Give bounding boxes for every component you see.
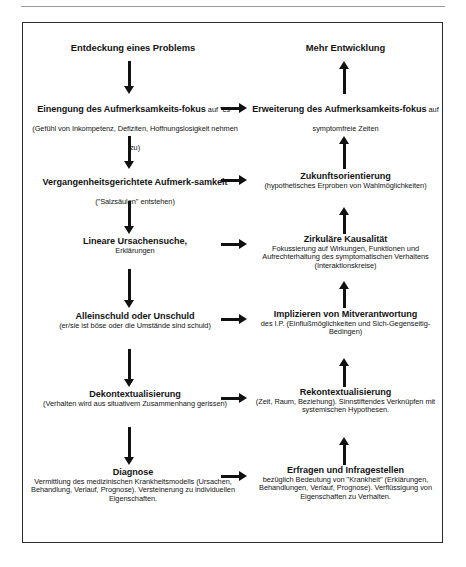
right-node-4: Implizieren von Mitverantwortung des I.P… bbox=[247, 309, 444, 337]
left-arrow-down-6 bbox=[124, 427, 135, 465]
diagram-frame: Entdeckung eines Problems Einengung des … bbox=[22, 22, 443, 543]
page-top-rule bbox=[21, 6, 445, 7]
left-node-5: Dekontextualisierung (Verhalten wird aus… bbox=[31, 389, 239, 408]
right-arrow-up-5 bbox=[339, 358, 350, 387]
right-arrow-up-3 bbox=[339, 207, 350, 234]
cross-arrow-1 bbox=[221, 103, 247, 114]
right-node-6: Erfragen und Infragestellen bezüglich Be… bbox=[245, 465, 446, 502]
left-node-2-heading: Vergangenheitsgerichtete Aufmerk-samkeit bbox=[42, 177, 227, 187]
right-node-5-sub: (Zeit, Raum, Beziehung). Sinnstiftendes … bbox=[247, 398, 444, 415]
left-arrow-down-3 bbox=[124, 201, 135, 234]
left-arrow-down-5 bbox=[124, 349, 135, 387]
right-title: Mehr Entwicklung bbox=[245, 37, 446, 56]
left-title-label: Entdeckung eines Problems bbox=[71, 42, 195, 53]
right-node-5: Rekontextualisierung (Zeit, Raum, Bezieh… bbox=[247, 387, 444, 415]
right-node-4-sub: des I.P. (Einflußmöglichkeiten und Sich-… bbox=[247, 320, 444, 337]
cross-arrow-3 bbox=[221, 239, 247, 250]
right-column: Mehr Entwicklung Erweiterung des Aufmerk… bbox=[245, 23, 446, 542]
left-arrow-down-1 bbox=[124, 61, 135, 94]
left-node-2: Vergangenheitsgerichtete Aufmerk-samkeit… bbox=[31, 171, 239, 209]
right-node-3: Zirkuläre Kausalität Fokussierung auf Wi… bbox=[247, 234, 444, 271]
left-column: Entdeckung eines Problems Einengung des … bbox=[25, 23, 241, 542]
left-node-6: Diagnose Vermittlung des medizinischen K… bbox=[25, 467, 241, 504]
right-arrow-up-2 bbox=[339, 136, 350, 169]
right-arrow-up-1 bbox=[339, 61, 350, 94]
left-node-3-sub: Erklärungen bbox=[31, 247, 239, 256]
left-node-6-sub: Vermittlung des medizinischen Krankheits… bbox=[25, 478, 241, 504]
right-node-2: Zukunftsorientierung (hypothetisches Erp… bbox=[247, 171, 444, 190]
right-node-3-sub: Fokussierung auf Wirkungen, Funktionen u… bbox=[247, 245, 444, 271]
right-title-label: Mehr Entwicklung bbox=[306, 42, 385, 53]
right-node-2-sub: (hypothetisches Erproben von Wahlmöglich… bbox=[247, 182, 444, 191]
cross-arrow-5 bbox=[221, 393, 247, 404]
left-node-1-heading: Einengung des Aufmerksamkeits-fokus bbox=[37, 104, 206, 114]
cross-arrow-2 bbox=[221, 175, 247, 186]
left-title: Entdeckung eines Problems bbox=[25, 37, 241, 56]
left-node-2-sub: ("Salzsäulen" entstehen) bbox=[95, 197, 175, 206]
right-node-1: Erweiterung des Aufmerksamkeits-fokus au… bbox=[247, 98, 444, 136]
left-node-5-sub: (Verhalten wird aus situativem Zusammenh… bbox=[31, 400, 239, 409]
left-arrow-down-4 bbox=[124, 269, 135, 308]
left-node-1: Einengung des Aufmerksamkeits-fokus auf … bbox=[31, 98, 239, 155]
right-node-6-sub: bezüglich Bedeutung von "Krankheit" (Erk… bbox=[245, 476, 446, 502]
left-node-4-sub: (er/sie ist böse oder die Umstände sind … bbox=[31, 322, 239, 331]
right-arrow-up-4 bbox=[339, 281, 350, 308]
right-node-1-heading: Erweiterung des Aufmerksamkeits-fokus bbox=[252, 104, 426, 114]
cross-arrow-4 bbox=[221, 314, 247, 325]
left-arrow-down-2 bbox=[124, 136, 135, 169]
left-node-4: Alleinschuld oder Unschuld (er/sie ist b… bbox=[31, 311, 239, 330]
cross-arrow-6 bbox=[221, 471, 247, 482]
right-arrow-up-6 bbox=[339, 437, 350, 465]
left-node-3: Lineare Ursachensuche, Erklärungen bbox=[31, 236, 239, 255]
